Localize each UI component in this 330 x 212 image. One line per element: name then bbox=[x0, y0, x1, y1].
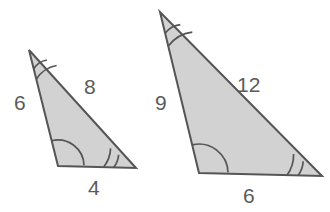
large-triangle-left-side-label: 9 bbox=[155, 92, 167, 113]
large-triangle-hypotenuse-label: 12 bbox=[237, 74, 260, 95]
small-triangle-shape bbox=[29, 50, 136, 168]
small-triangle-hypotenuse-label: 8 bbox=[84, 76, 96, 97]
small-triangle-left-side-label: 6 bbox=[14, 92, 26, 113]
small-triangle-base-label: 4 bbox=[88, 177, 100, 198]
geometry-figure: 6 8 4 9 12 6 bbox=[0, 0, 330, 212]
large-triangle-base-label: 6 bbox=[243, 185, 255, 206]
small-triangle-group bbox=[29, 50, 136, 168]
